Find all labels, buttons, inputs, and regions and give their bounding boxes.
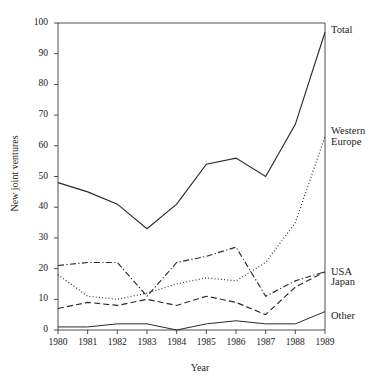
series-label-other: Other — [331, 310, 355, 322]
series-line-japan — [58, 272, 325, 315]
x-axis-title: Year — [160, 362, 240, 373]
series-line-usa — [58, 247, 325, 296]
x-tick-label: 1989 — [308, 337, 342, 347]
y-axis-title: New joint ventures — [9, 114, 20, 234]
y-tick-label: 0 — [22, 324, 48, 334]
series-line-western-europe — [58, 137, 325, 300]
y-tick-label: 90 — [22, 48, 48, 58]
series-label-western-europe: Western Europe — [331, 125, 365, 148]
y-tick-label: 70 — [22, 109, 48, 119]
y-tick-label: 40 — [22, 201, 48, 211]
chart-figure: 0102030405060708090100 19801981198219831… — [0, 0, 392, 388]
series-line-other — [58, 312, 325, 330]
y-tick-label: 80 — [22, 78, 48, 88]
chart-plot-area — [0, 0, 392, 388]
y-tick-label: 50 — [22, 171, 48, 181]
y-tick-label: 20 — [22, 263, 48, 273]
y-tick-label: 30 — [22, 232, 48, 242]
y-tick-label: 60 — [22, 140, 48, 150]
axis-frame — [58, 23, 325, 330]
series-label-total: Total — [331, 24, 352, 36]
y-tick-label: 10 — [22, 293, 48, 303]
series-line-total — [58, 32, 325, 228]
y-tick-label: 100 — [22, 17, 48, 27]
y-tick-marks — [54, 23, 58, 330]
series-label-japan: Japan — [331, 276, 355, 288]
data-series-group — [58, 32, 325, 330]
x-tick-marks — [58, 330, 325, 334]
